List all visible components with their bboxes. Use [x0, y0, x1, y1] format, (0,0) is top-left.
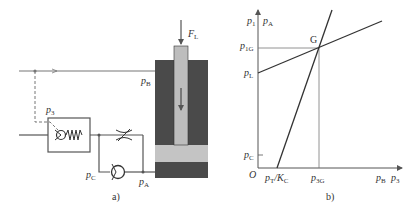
piston [155, 145, 208, 162]
svg-text:pB: pB [140, 75, 151, 88]
svg-text:pA: pA [262, 15, 273, 28]
svg-text:FL: FL [187, 28, 198, 41]
line-pA [277, 10, 332, 168]
svg-text:pL: pL [243, 67, 253, 80]
pilot-line [35, 71, 58, 130]
svg-text:pT/KC: pT/KC [264, 172, 289, 185]
figure-a-circuit: FL pB p3 pC pA a) [19, 20, 208, 203]
caption-b: b) [326, 191, 334, 203]
svg-text:p3: p3 [45, 104, 55, 117]
svg-text:pA: pA [138, 176, 149, 189]
svg-text:p3: p3 [390, 172, 400, 185]
svg-text:p1: p1 [246, 15, 256, 28]
svg-text:pC: pC [243, 149, 254, 162]
svg-text:pC: pC [85, 169, 96, 182]
figure-b-graph: p1 pA p1G pL pC O pT/KC p3G pB p3 G b) [239, 10, 402, 203]
spring-icon [66, 130, 82, 140]
hydraulic-diagram: FL pB p3 pC pA a) p1 pA p1G pL pC O pT/K… [0, 0, 414, 210]
line-p1 [258, 21, 382, 73]
svg-text:O: O [249, 169, 256, 180]
svg-text:G: G [310, 34, 317, 45]
svg-text:pB: pB [375, 172, 386, 185]
svg-text:p3G: p3G [310, 172, 325, 185]
svg-text:p1G: p1G [239, 40, 254, 53]
caption-a: a) [112, 191, 120, 203]
